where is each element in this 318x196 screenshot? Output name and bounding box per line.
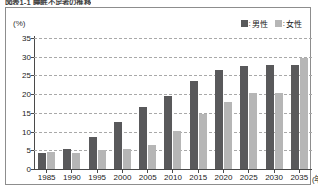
y-axis-tick-label: 15 xyxy=(22,108,31,117)
legend-separator-male: : xyxy=(249,19,251,28)
legend-item-male: : 男性 xyxy=(241,18,268,29)
bar-group xyxy=(59,38,84,169)
y-axis-tick-label: 10 xyxy=(22,127,31,136)
y-axis-tick-label: 35 xyxy=(22,34,31,43)
legend-label-female: 女性 xyxy=(286,18,302,29)
bar-女性-1990 xyxy=(72,153,80,169)
bar-group xyxy=(186,38,211,169)
bar-女性-2020 xyxy=(224,102,232,169)
x-axis-tick-label: 2035(年) xyxy=(287,173,312,182)
x-axis-tick-label: 1985 xyxy=(34,173,59,182)
bars-layer xyxy=(34,38,312,169)
bar-group xyxy=(211,38,236,169)
chart-legend: : 男性 : 女性 xyxy=(241,18,302,29)
x-axis-tick-label: 2005 xyxy=(135,173,160,182)
bar-group xyxy=(34,38,59,169)
legend-item-female: : 女性 xyxy=(275,18,302,29)
x-axis-labels: 1985199019952000200520102015202020252030… xyxy=(34,173,312,182)
y-axis-tick-label: 25 xyxy=(22,71,31,80)
bar-女性-2035 xyxy=(300,58,308,169)
bar-group xyxy=(236,38,261,169)
bar-女性-2015 xyxy=(199,114,207,169)
bar-group xyxy=(261,38,286,169)
bar-女性-2005 xyxy=(148,145,156,169)
x-axis-tick-label: 2010 xyxy=(160,173,185,182)
x-axis-tick-label: 2000 xyxy=(110,173,135,182)
plot-area: 35302520151050 xyxy=(34,38,312,169)
x-axis-tick-label: 2025 xyxy=(236,173,261,182)
x-axis-tick-label: 2030 xyxy=(261,173,286,182)
bar-group xyxy=(160,38,185,169)
bar-女性-2000 xyxy=(123,149,131,169)
x-axis-tick-label: 2015 xyxy=(186,173,211,182)
bar-男性-2005 xyxy=(139,107,147,169)
x-axis-tick-label: 1995 xyxy=(85,173,110,182)
bar-男性-2020 xyxy=(215,70,223,169)
x-axis-tick-label: 1990 xyxy=(59,173,84,182)
chart-figure: 図表1-1 睡眠不足者の推移 (%) : 男性 : 女性 35302520151… xyxy=(0,0,318,196)
square-swatch-icon xyxy=(275,20,282,27)
bar-男性-1985 xyxy=(38,153,46,169)
bar-男性-2000 xyxy=(114,122,122,169)
bar-女性-2010 xyxy=(173,131,181,169)
legend-separator-female: : xyxy=(283,19,285,28)
bar-group xyxy=(135,38,160,169)
bar-男性-2030 xyxy=(266,65,274,169)
legend-label-male: 男性 xyxy=(252,18,268,29)
bar-男性-1990 xyxy=(63,149,71,169)
bar-男性-2035 xyxy=(291,65,299,169)
bar-男性-2015 xyxy=(190,81,198,169)
bar-group xyxy=(110,38,135,169)
y-axis-unit-label: (%) xyxy=(13,19,25,28)
x-axis-tick-label: 2020 xyxy=(211,173,236,182)
bar-group xyxy=(85,38,110,169)
bar-男性-2025 xyxy=(240,66,248,169)
bar-男性-1995 xyxy=(89,137,97,169)
y-axis-tick-label: 20 xyxy=(22,90,31,99)
bar-女性-1995 xyxy=(98,150,106,169)
bar-男性-2010 xyxy=(164,96,172,169)
bar-女性-2030 xyxy=(275,93,283,169)
bar-女性-1985 xyxy=(47,152,55,169)
figure-caption: 図表1-1 睡眠不足者の推移 xyxy=(5,0,91,5)
chart-frame: (%) : 男性 : 女性 35302520151050 19851990199… xyxy=(5,7,311,185)
square-swatch-icon xyxy=(241,20,248,27)
y-axis-tick-label: 30 xyxy=(22,52,31,61)
bar-group xyxy=(287,38,312,169)
bar-女性-2025 xyxy=(249,93,257,169)
x-axis-unit-label: (年) xyxy=(312,173,318,184)
